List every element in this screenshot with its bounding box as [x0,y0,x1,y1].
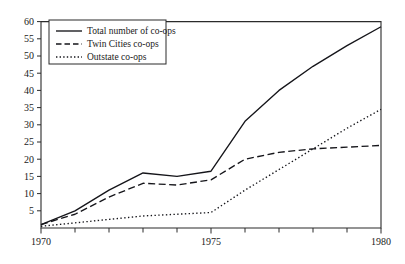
series-line-dotted [41,109,381,226]
y-axis-tick-label: 50 [24,50,34,61]
x-axis-ticks: 197019751980 [31,228,391,247]
x-axis-tick-label: 1980 [371,236,391,247]
legend-item-label: Twin Cities co-ops [87,39,159,49]
y-axis-tick-label: 40 [24,85,34,96]
y-axis-tick-label: 10 [24,188,34,199]
series-line-dashed [41,145,381,224]
chart-legend: Total number of co-opsTwin Cities co-ops… [49,20,176,64]
line-chart: 51015202530354045505560 197019751980 Tot… [0,0,405,264]
y-axis-tick-label: 5 [29,205,34,216]
legend-item-label: Total number of co-ops [87,26,176,36]
x-axis-tick-label: 1975 [201,236,221,247]
y-axis-tick-label: 35 [24,102,34,113]
y-axis-tick-label: 15 [24,171,34,182]
chart-canvas: 51015202530354045505560 197019751980 Tot… [0,0,405,264]
y-axis-tick-label: 55 [24,33,34,44]
y-axis-tick-label: 25 [24,136,34,147]
y-axis-tick-label: 30 [24,119,34,130]
y-axis-tick-label: 60 [24,16,34,27]
y-axis-tick-label: 45 [24,68,34,79]
legend-item-label: Outstate co-ops [87,52,147,62]
x-axis-tick-label: 1970 [31,236,51,247]
y-axis-ticks: 51015202530354045505560 [24,16,41,216]
y-axis-tick-label: 20 [24,154,34,165]
